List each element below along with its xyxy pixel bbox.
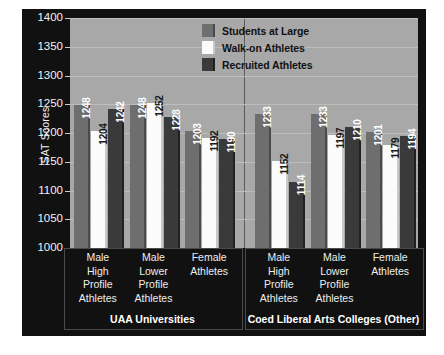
bar-face <box>185 131 199 248</box>
bar: 1114 <box>289 182 303 248</box>
legend-label: Recruited Athletes <box>222 59 313 71</box>
legend-item: Walk-on Athletes <box>202 40 313 55</box>
bar: 1210 <box>345 127 359 248</box>
bar-value-label: 1233 <box>262 106 273 127</box>
legend-swatch-face <box>202 41 213 54</box>
bar-shadow-edge <box>178 117 180 248</box>
legend-label: Walk-on Athletes <box>222 42 305 54</box>
bar-face <box>366 132 380 248</box>
bar-value-label: 1194 <box>407 129 418 150</box>
bar-shadow-edge <box>414 136 416 248</box>
bar: 1233 <box>255 114 269 248</box>
bar: 1248 <box>130 105 144 248</box>
chart-legend: Students at LargeWalk-on AthletesRecruit… <box>202 23 313 74</box>
bar-shadow-edge <box>122 109 124 248</box>
y-axis-tick-label: 1100 <box>22 185 63 196</box>
bar: 1152 <box>272 161 286 248</box>
bar-value-label: 1233 <box>318 106 329 127</box>
bar: 1197 <box>328 135 342 248</box>
legend-swatch <box>202 58 215 71</box>
bar-face <box>164 117 178 248</box>
legend-swatch-face <box>202 58 213 71</box>
bar-face <box>255 114 269 248</box>
bar-face <box>91 131 105 248</box>
bar-face <box>400 136 414 248</box>
y-axis-tick-label: 1400 <box>22 12 63 23</box>
bar: 1190 <box>219 139 233 248</box>
bar-value-label: 1114 <box>296 175 307 195</box>
bar-value-label: 1248 <box>81 98 92 119</box>
bar-shadow-edge <box>144 105 146 248</box>
chart-panel: SAT Scores 10001050110011501200125013001… <box>22 9 426 336</box>
legend-swatch <box>202 24 215 37</box>
legend-item: Recruited Athletes <box>202 57 313 72</box>
bar-face <box>74 105 88 248</box>
y-axis-tick-label: 1000 <box>22 242 63 253</box>
bar: 1179 <box>383 145 397 248</box>
bar-shadow-edge <box>105 131 107 248</box>
y-axis-tick-label: 1300 <box>22 70 63 81</box>
legend-swatch-edge <box>213 24 215 37</box>
bar-face <box>311 114 325 248</box>
y-axis-tick-label: 1350 <box>22 41 63 52</box>
bar: 1252 <box>147 103 161 248</box>
legend-swatch-edge <box>213 41 215 54</box>
bar-face <box>328 135 342 248</box>
bar-shadow-edge <box>325 114 327 248</box>
bar-face <box>108 109 122 248</box>
bar-shadow-edge <box>269 114 271 248</box>
bar-shadow-edge <box>161 103 163 248</box>
bar-face <box>130 105 144 248</box>
group-title-coed: Coed Liberal Arts Colleges (Other) <box>245 313 422 325</box>
bar-shadow-edge <box>216 138 218 248</box>
bar: 1242 <box>108 109 122 248</box>
y-axis-tick-label: 1050 <box>22 213 63 224</box>
bar-face <box>383 145 397 248</box>
bar: 1194 <box>400 136 414 248</box>
legend-item: Students at Large <box>202 23 313 38</box>
bar-face <box>219 139 233 248</box>
bar: 1228 <box>164 117 178 248</box>
y-axis-tick-label: 1200 <box>22 127 63 138</box>
legend-swatch <box>202 41 215 54</box>
legend-label: Students at Large <box>222 25 309 37</box>
y-axis-tick-label: 1250 <box>22 98 63 109</box>
bar: 1248 <box>74 105 88 248</box>
bar-shadow-edge <box>397 145 399 248</box>
bar-shadow-edge <box>380 132 382 248</box>
bar-shadow-edge <box>342 135 344 248</box>
bar-value-label: 1242 <box>115 101 126 122</box>
bar-shadow-edge <box>359 127 361 248</box>
legend-swatch-edge <box>213 58 215 71</box>
bar-value-label: 1152 <box>279 153 290 174</box>
bar-shadow-edge <box>233 139 235 248</box>
bar: 1204 <box>91 131 105 248</box>
bar-value-label: 1201 <box>373 125 384 146</box>
bar: 1233 <box>311 114 325 248</box>
bar-face <box>345 127 359 248</box>
bar: 1203 <box>185 131 199 248</box>
legend-swatch-face <box>202 24 213 37</box>
bar-shadow-edge <box>199 131 201 248</box>
gridline <box>70 18 418 19</box>
bar-face <box>147 103 161 248</box>
bar-shadow-edge <box>88 105 90 248</box>
group-title-uaa: UAA Universities <box>64 313 241 325</box>
chart-figure: SAT Scores 10001050110011501200125013001… <box>0 0 444 355</box>
bar-value-label: 1210 <box>352 120 363 141</box>
y-axis-tick-label: 1150 <box>22 156 63 167</box>
gridline <box>70 76 418 77</box>
bar-value-label: 1228 <box>171 109 182 130</box>
bar: 1192 <box>202 138 216 248</box>
bar-value-label: 1190 <box>226 131 237 152</box>
bar-face <box>202 138 216 248</box>
bar: 1201 <box>366 132 380 248</box>
bar-value-label: 1252 <box>154 95 165 116</box>
